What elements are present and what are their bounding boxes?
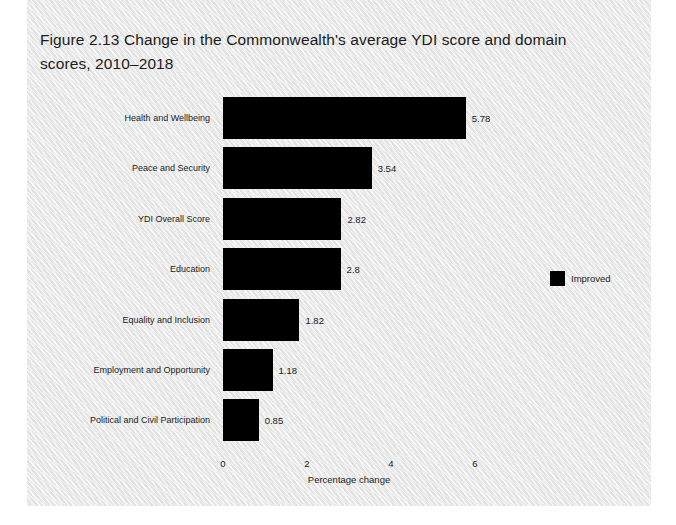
legend-swatch-improved — [550, 271, 565, 286]
bar-value-label: 1.18 — [279, 365, 298, 376]
figure-screenshot: Figure 2.13 Change in the Commonwealth's… — [0, 0, 676, 525]
category-label: Political and Civil Participation — [90, 415, 210, 425]
category-label: Health and Wellbeing — [125, 113, 210, 123]
bar-row: Health and Wellbeing5.78 — [223, 97, 511, 139]
bar-row: Employment and Opportunity1.18 — [223, 349, 511, 391]
x-axis: Percentage change 0246 — [223, 452, 511, 492]
bar-value-label: 3.54 — [378, 163, 397, 174]
bar — [223, 97, 466, 139]
x-tick-label: 0 — [220, 458, 225, 469]
category-label: Employment and Opportunity — [93, 365, 210, 375]
bar — [223, 299, 299, 341]
category-label: Education — [170, 264, 210, 274]
bar-value-label: 2.8 — [347, 264, 360, 275]
bar-row: Equality and Inclusion1.82 — [223, 299, 511, 341]
x-tick-label: 4 — [388, 458, 393, 469]
bar — [223, 399, 259, 441]
bar-row: YDI Overall Score2.82 — [223, 198, 511, 240]
bar-chart-plot-area: Health and Wellbeing5.78Peace and Securi… — [223, 97, 511, 450]
x-tick-label: 6 — [472, 458, 477, 469]
bar-row: Political and Civil Participation0.85 — [223, 399, 511, 441]
bar — [223, 248, 341, 290]
bar-value-label: 0.85 — [265, 415, 284, 426]
x-tick-label: 2 — [304, 458, 309, 469]
category-label: Peace and Security — [132, 163, 210, 173]
chart-legend: Improved — [550, 271, 611, 286]
legend-label-improved: Improved — [571, 273, 611, 284]
bar — [223, 198, 341, 240]
page-title: Figure 2.13 Change in the Commonwealth's… — [40, 28, 620, 76]
bar-value-label: 5.78 — [472, 113, 491, 124]
x-axis-title: Percentage change — [223, 474, 475, 485]
category-label: YDI Overall Score — [138, 214, 210, 224]
bar — [223, 147, 372, 189]
bar — [223, 349, 273, 391]
bar-row: Peace and Security3.54 — [223, 147, 511, 189]
category-label: Equality and Inclusion — [122, 315, 210, 325]
bar-value-label: 2.82 — [347, 213, 366, 224]
bar-value-label: 1.82 — [305, 314, 324, 325]
bar-row: Education2.8 — [223, 248, 511, 290]
